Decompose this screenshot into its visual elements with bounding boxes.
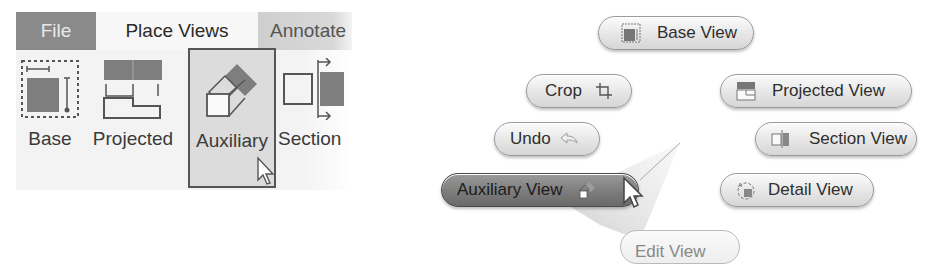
mouse-cursor-icon xyxy=(256,156,278,186)
menu-item-label: Undo xyxy=(510,129,551,149)
tab-place-views[interactable]: Place Views xyxy=(96,12,258,50)
auxiliary-view-icon xyxy=(201,60,263,122)
tab-annotate[interactable]: Annotate xyxy=(258,12,352,50)
projected-view-icon xyxy=(102,58,164,120)
ribbon-panel: Base Projected Auxiliary xyxy=(16,50,352,190)
menu-item-label: Auxiliary View xyxy=(457,180,563,200)
menu-item-projected-view[interactable]: Projected View xyxy=(720,74,912,108)
ribbon-button-auxiliary[interactable]: Auxiliary xyxy=(188,48,276,188)
menu-item-crop[interactable]: Crop xyxy=(526,74,632,108)
base-view-icon xyxy=(19,58,81,120)
menu-item-label: Base View xyxy=(657,23,737,43)
menu-item-label: Detail View xyxy=(768,180,853,200)
menu-item-edit-view[interactable]: Edit View xyxy=(620,230,740,264)
menu-item-label: Crop xyxy=(545,81,582,101)
auxiliary-view-icon xyxy=(577,180,597,200)
tab-file[interactable]: File xyxy=(16,12,96,50)
base-view-icon xyxy=(621,23,641,43)
projected-view-icon xyxy=(736,81,756,101)
ribbon-tab-bar: File Place Views Annotate xyxy=(16,12,352,50)
crop-icon xyxy=(594,81,614,101)
ribbon-button-label: Auxiliary xyxy=(190,130,274,152)
menu-item-label: Edit View xyxy=(635,242,706,262)
menu-item-auxiliary-view[interactable]: Auxiliary View xyxy=(441,173,639,207)
menu-item-undo[interactable]: Undo xyxy=(494,122,600,156)
ribbon-button-label: Projected xyxy=(86,128,180,150)
ribbon-button-label: Base xyxy=(20,128,80,150)
ribbon-button-projected[interactable]: Projected xyxy=(86,50,180,190)
ribbon-button-section[interactable]: Section xyxy=(278,50,358,190)
detail-view-icon: A xyxy=(736,180,756,200)
svg-text:A: A xyxy=(738,182,742,188)
section-view-icon xyxy=(282,58,344,120)
undo-arrow-icon xyxy=(559,129,579,149)
menu-item-detail-view[interactable]: A Detail View xyxy=(720,173,874,207)
ribbon-button-label: Section xyxy=(278,128,358,150)
menu-item-label: Projected View xyxy=(772,81,885,101)
menu-item-label: Section View xyxy=(809,129,907,149)
menu-item-section-view[interactable]: Section View xyxy=(755,122,917,156)
section-view-icon xyxy=(771,129,791,149)
menu-item-base-view[interactable]: Base View xyxy=(598,16,754,50)
ribbon: File Place Views Annotate Base xyxy=(16,12,352,190)
mouse-cursor-icon xyxy=(622,176,646,210)
ribbon-button-base[interactable]: Base xyxy=(20,50,80,190)
